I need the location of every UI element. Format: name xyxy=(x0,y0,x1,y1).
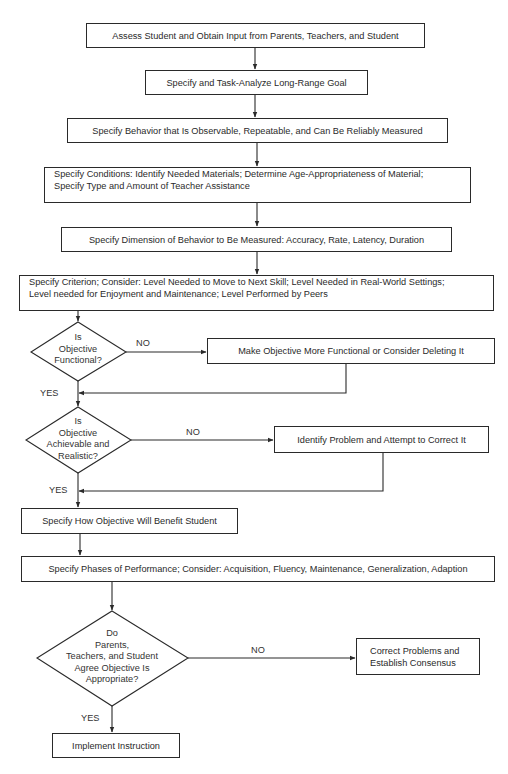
node-specify-criterion-line1: Specify Criterion; Consider: Level Neede… xyxy=(29,276,445,288)
node-implement-instruction: Implement Instruction xyxy=(52,733,180,758)
decision-agree-line1: Do xyxy=(66,628,158,640)
decision-achievable-line4: Realistic? xyxy=(47,451,110,463)
edge-no-functional: NO xyxy=(136,338,150,348)
node-make-functional: Make Objective More Functional or Consid… xyxy=(207,338,495,364)
node-specify-phases-label: Specify Phases of Performance; Consider:… xyxy=(48,563,467,575)
decision-achievable-line2: Objective xyxy=(47,428,110,440)
node-specify-conditions: Specify Conditions: Identify Needed Mate… xyxy=(44,167,471,203)
edge-no-agree: NO xyxy=(251,645,265,655)
decision-agree-line4: Agree Objective Is xyxy=(66,663,158,675)
node-long-range-goal: Specify and Task-Analyze Long-Range Goal xyxy=(145,70,368,95)
node-identify-problem-label: Identify Problem and Attempt to Correct … xyxy=(297,434,466,446)
decision-achievable-line3: Achievable and xyxy=(47,439,110,451)
node-benefit-student-label: Specify How Objective Will Benefit Stude… xyxy=(42,515,217,527)
node-specify-behavior-label: Specify Behavior that Is Observable, Rep… xyxy=(92,125,422,137)
node-correct-problems-line1: Correct Problems and xyxy=(370,645,459,657)
decision-functional-line3: Functional? xyxy=(54,355,102,367)
decision-agree-line5: Appropriate? xyxy=(66,674,158,686)
node-identify-problem: Identify Problem and Attempt to Correct … xyxy=(274,426,489,453)
decision-agree-line2: Parents, xyxy=(66,640,158,652)
node-correct-problems-line2: Establish Consensus xyxy=(370,657,456,669)
node-assess-student-label: Assess Student and Obtain Input from Par… xyxy=(112,30,398,42)
node-long-range-goal-label: Specify and Task-Analyze Long-Range Goal xyxy=(166,77,346,89)
decision-agree-label: Do Parents, Teachers, and Student Agree … xyxy=(66,628,158,686)
edge-yes-achievable: YES xyxy=(49,485,67,495)
node-specify-criterion-line2: Level needed for Enjoyment and Maintenan… xyxy=(29,288,328,300)
node-specify-dimension-label: Specify Dimension of Behavior to Be Meas… xyxy=(89,234,424,246)
node-make-functional-label: Make Objective More Functional or Consid… xyxy=(238,345,464,357)
node-specify-criterion: Specify Criterion; Consider: Level Neede… xyxy=(19,275,494,311)
decision-functional-label: Is Objective Functional? xyxy=(54,332,102,367)
node-specify-conditions-line1: Specify Conditions: Identify Needed Mate… xyxy=(54,168,423,180)
edge-yes-agree: YES xyxy=(81,713,99,723)
node-correct-problems: Correct Problems and Establish Consensus xyxy=(356,638,480,675)
node-benefit-student: Specify How Objective Will Benefit Stude… xyxy=(21,508,238,534)
edge-no-achievable: NO xyxy=(186,427,200,437)
decision-functional-line2: Objective xyxy=(54,344,102,356)
node-assess-student: Assess Student and Obtain Input from Par… xyxy=(86,23,425,48)
node-specify-behavior: Specify Behavior that Is Observable, Rep… xyxy=(67,118,448,143)
edge-yes-functional: YES xyxy=(40,388,58,398)
decision-achievable-line1: Is xyxy=(47,416,110,428)
decision-agree-line3: Teachers, and Student xyxy=(66,651,158,663)
decision-functional-line1: Is xyxy=(54,332,102,344)
node-specify-dimension: Specify Dimension of Behavior to Be Meas… xyxy=(61,227,452,252)
node-specify-phases: Specify Phases of Performance; Consider:… xyxy=(21,556,495,582)
decision-achievable-label: Is Objective Achievable and Realistic? xyxy=(47,416,110,462)
node-implement-instruction-label: Implement Instruction xyxy=(72,740,160,752)
node-specify-conditions-line2: Specify Type and Amount of Teacher Assis… xyxy=(54,180,250,192)
